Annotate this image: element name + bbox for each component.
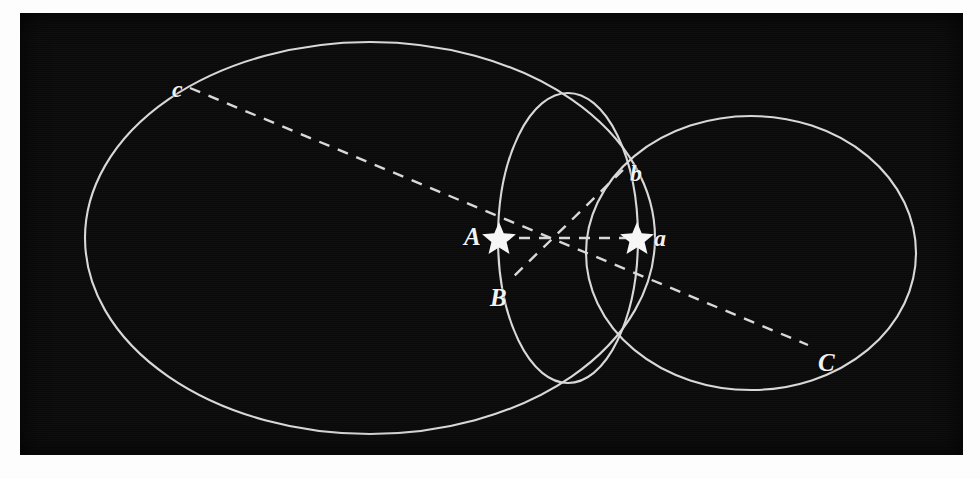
figure-page: c b A a B C xyxy=(0,0,980,479)
label-a: a xyxy=(654,226,666,250)
label-A: A xyxy=(464,224,481,249)
label-c: c xyxy=(172,77,183,101)
label-b: b xyxy=(630,161,642,185)
dashed-line-b-B xyxy=(512,170,623,278)
label-C: C xyxy=(818,350,835,375)
right-ellipse xyxy=(586,116,916,390)
label-B: B xyxy=(490,285,507,310)
diagram-canvas xyxy=(20,13,963,455)
diagram-plate: c b A a B C xyxy=(20,13,963,455)
